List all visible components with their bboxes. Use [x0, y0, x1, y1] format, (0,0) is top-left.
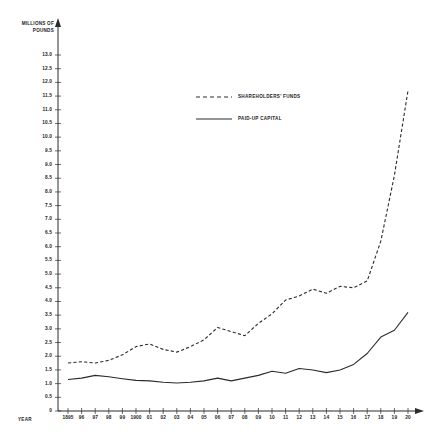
- series-line-shareholders-funds: [68, 91, 408, 363]
- legend-swatches: [196, 97, 232, 119]
- y-axis-arrow-icon: [55, 18, 61, 27]
- legend-label-shareholders-funds: SHAREHOLDERS' FUNDS: [238, 94, 300, 99]
- chart-figure: MILLIONS OF POUNDS YEAR 13.012.512.011.5…: [0, 0, 433, 436]
- legend-label-paid-up-capital: PAID-UP CAPITAL: [238, 116, 282, 121]
- series-line-paid-up-capital: [68, 312, 408, 383]
- data-series-group: [68, 91, 408, 383]
- plot-area: [0, 0, 433, 436]
- x-axis-arrow-icon: [415, 408, 424, 414]
- axes: [55, 18, 424, 414]
